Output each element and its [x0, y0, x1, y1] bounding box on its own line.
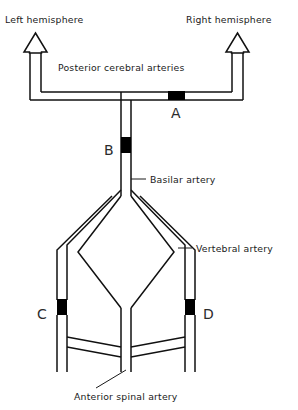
occlusion-marker-b-label: B [104, 142, 114, 158]
label-right-hemisphere: Right hemisphere [186, 14, 272, 25]
right-vertebral-lower-segment [185, 315, 195, 372]
label-anterior-spinal-artery: Anterior spinal artery [74, 391, 178, 402]
posterior-cerebral-trunk [30, 92, 243, 100]
right-anastomotic-branch [131, 337, 185, 357]
occlusion-marker-d-label: D [203, 306, 214, 322]
left-posterior-cerebral-artery [24, 33, 47, 100]
left-vertebral-lower-segment [57, 315, 67, 372]
cerebral-artery-diagram: Left hemisphere Right hemisphere Posteri… [0, 0, 298, 410]
occlusion-marker-c-label: C [37, 306, 47, 322]
right-vertebral-artery [131, 190, 195, 300]
vertebral-confluence-diamond [78, 196, 174, 308]
diagram-canvas: Left hemisphere Right hemisphere Posteri… [0, 0, 298, 410]
occlusion-marker-c-block [57, 299, 67, 315]
occlusion-marker-d-block [185, 299, 195, 315]
label-basilar-artery: Basilar artery [150, 174, 216, 185]
left-vertebral-artery [57, 190, 121, 300]
right-flow-arrowhead [226, 33, 249, 53]
left-anastomotic-branch [67, 337, 121, 357]
label-vertebral-artery: Vertebral artery [196, 243, 273, 254]
left-flow-arrowhead [24, 33, 47, 53]
label-posterior-cerebral-arteries: Posterior cerebral arteries [58, 62, 184, 73]
label-left-hemisphere: Left hemisphere [5, 14, 83, 25]
occlusion-marker-b-block [121, 137, 131, 153]
right-posterior-cerebral-artery [226, 33, 249, 100]
occlusion-marker-a-block [168, 91, 185, 100]
occlusion-marker-a-label: A [171, 105, 181, 121]
anterior-spinal-artery-leader-line [96, 370, 126, 388]
anterior-spinal-artery [121, 308, 131, 372]
